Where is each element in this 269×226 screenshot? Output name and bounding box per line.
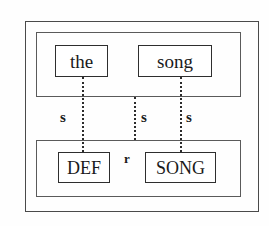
node-def: DEF — [58, 152, 110, 183]
node-song-feature: SONG — [145, 152, 216, 183]
association-line-middle — [134, 97, 136, 140]
diagram-canvas: the song DEF SONG s s s r — [0, 0, 269, 226]
association-line-the-def — [82, 77, 84, 152]
relation-label-r: r — [124, 152, 130, 165]
association-label-s-1: s — [60, 110, 66, 125]
node-song: song — [138, 45, 212, 77]
association-line-song-song — [180, 77, 182, 152]
association-label-s-3: s — [186, 110, 192, 125]
association-label-s-2: s — [141, 110, 147, 125]
node-the: the — [55, 45, 108, 77]
